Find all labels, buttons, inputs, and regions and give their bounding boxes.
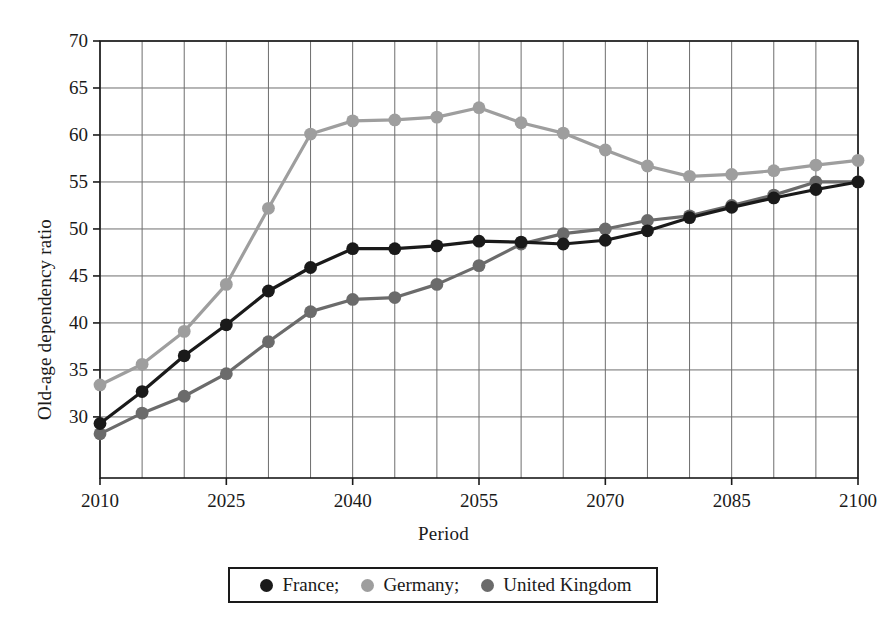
data-point-marker [852,176,865,189]
data-point-marker [852,154,865,167]
y-tick-label: 35 [69,359,88,380]
data-point-marker [515,236,528,249]
data-point-marker [346,242,359,255]
x-tick-label: 2040 [334,490,372,511]
x-tick-label: 2085 [713,490,751,511]
y-tick-label: 60 [69,124,88,145]
y-tick-label: 50 [69,218,88,239]
x-axis-title: Period [0,523,887,545]
data-point-marker [178,390,191,403]
data-point-marker [515,116,528,129]
data-point-marker [725,168,738,181]
y-tick-label: 65 [69,77,88,98]
data-point-marker [346,293,359,306]
x-tick-label: 2100 [839,490,877,511]
data-point-marker [220,318,233,331]
data-point-marker [430,239,443,252]
x-tick-label: 2010 [81,490,119,511]
data-point-marker [473,101,486,114]
data-point-marker [430,111,443,124]
y-tick-label: 40 [69,312,88,333]
data-point-marker [220,278,233,291]
chart-legend: France;Germany;United Kingdom [228,567,658,603]
y-axis-title: Old-age dependency ratio [34,219,56,420]
legend-item[interactable]: Germany; [347,574,467,596]
data-point-marker [557,238,570,251]
axis-tick-labels: 3035404550556065702010202520402055207020… [69,30,877,511]
data-point-marker [641,224,654,237]
x-tick-label: 2055 [460,490,498,511]
data-point-marker [262,285,275,298]
data-point-marker [346,114,359,127]
data-point-marker [473,235,486,248]
data-point-marker [136,385,149,398]
chart-figure: 3035404550556065702010202520402055207020… [0,0,887,636]
data-point-marker [388,114,401,127]
data-point-marker [220,367,233,380]
data-point-marker [94,379,107,392]
data-point-marker [557,127,570,140]
data-point-marker [262,202,275,215]
legend-item[interactable]: United Kingdom [467,574,639,596]
legend-item[interactable]: France; [246,574,347,596]
circle-marker-icon [481,579,494,592]
data-point-marker [641,160,654,173]
data-point-marker [683,211,696,224]
data-point-marker [599,234,612,247]
data-point-marker [430,278,443,291]
data-point-marker [473,259,486,272]
data-point-marker [304,305,317,318]
circle-marker-icon [361,579,374,592]
data-point-marker [136,407,149,420]
x-tick-label: 2025 [207,490,245,511]
data-point-marker [725,201,738,214]
legend-item-label: France; [282,574,339,596]
y-tick-label: 30 [69,406,88,427]
data-point-marker [136,358,149,371]
data-point-marker [178,325,191,338]
data-point-marker [94,417,107,430]
data-point-marker [599,223,612,236]
y-tick-label: 55 [69,171,88,192]
data-point-marker [178,349,191,362]
data-point-marker [767,164,780,177]
data-point-marker [262,335,275,348]
data-point-marker [767,192,780,205]
data-point-marker [683,170,696,183]
legend-item-label: United Kingdom [503,574,631,596]
circle-marker-icon [260,579,273,592]
data-point-marker [599,144,612,157]
data-point-marker [809,159,822,172]
data-point-marker [388,242,401,255]
data-point-marker [388,291,401,304]
legend-item-label: Germany; [383,574,459,596]
data-point-marker [304,261,317,274]
y-tick-label: 70 [69,30,88,51]
x-tick-label: 2070 [586,490,624,511]
data-point-marker [304,128,317,141]
data-point-marker [809,183,822,196]
y-tick-label: 45 [69,265,88,286]
